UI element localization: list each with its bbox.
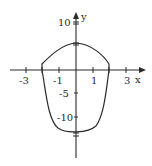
x-tick-label: 3 [124,75,130,86]
y-tick-label: 10 [58,17,71,28]
graph-figure: -3 -1 1 3 x 10 -5 -10 y [0,0,152,166]
x-tick-label: 1 [91,75,97,86]
y-axis-label: y [80,11,87,22]
x-axis-label: x [135,74,141,85]
y-tick-label: -10 [57,112,73,123]
x-tick-label: -3 [19,75,29,86]
x-tick-label: -1 [53,75,63,86]
y-tick-label: -5 [59,88,69,99]
x-axis-arrow-icon [139,67,146,73]
y-axis-arrow-icon [73,12,79,19]
